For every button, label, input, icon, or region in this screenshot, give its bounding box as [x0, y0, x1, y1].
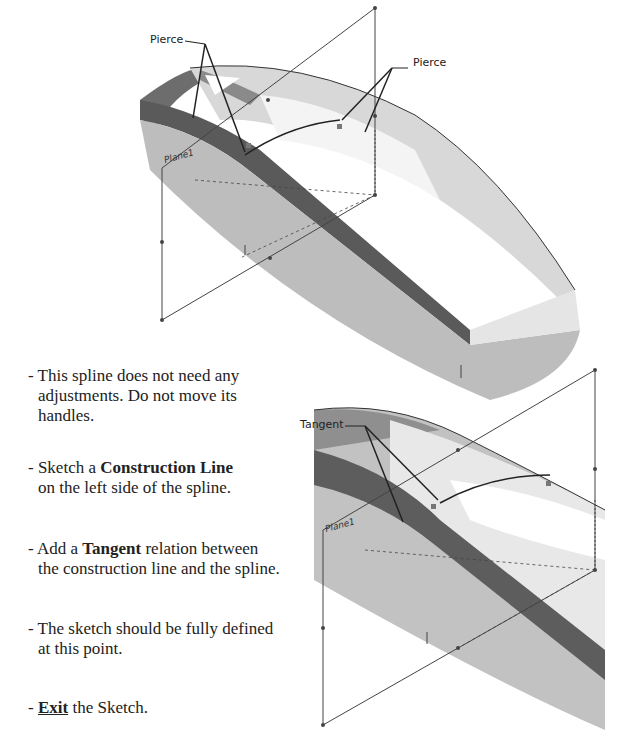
step-text: at this point.: [28, 639, 273, 659]
step-text: handles.: [28, 406, 239, 426]
emphasis-text: Construction Line: [100, 458, 233, 477]
emphasis-text: Exit: [38, 698, 68, 717]
step-text: - This spline does not need any: [28, 366, 239, 385]
step-5: - Exit the Sketch.: [28, 698, 148, 718]
tangent-callout: Tangent: [300, 418, 344, 431]
emphasis-text: Tangent: [82, 539, 141, 558]
step-text: the Sketch.: [68, 698, 148, 717]
step-text: - Add a: [28, 539, 82, 558]
step-3: - Add a Tangent relation between the con…: [28, 539, 280, 579]
step-text: - The sketch should be fully defined: [28, 619, 273, 638]
step-4: - The sketch should be fully defined at …: [28, 619, 273, 659]
pierce-callout-right: Pierce: [413, 56, 446, 69]
step-2: - Sketch a Construction Line on the left…: [28, 458, 233, 498]
step-text: on the left side of the spline.: [28, 478, 233, 498]
step-text: - Sketch a: [28, 458, 100, 477]
pierce-callout-left: Pierce: [150, 33, 183, 46]
top-cad-figure: Plane1: [0, 0, 627, 420]
step-1: - This spline does not need any adjustme…: [28, 366, 239, 426]
step-text: -: [28, 698, 38, 717]
step-text: adjustments. Do not move its: [28, 386, 239, 406]
step-text: relation between: [141, 539, 258, 558]
step-text: the construction line and the spline.: [28, 559, 280, 579]
